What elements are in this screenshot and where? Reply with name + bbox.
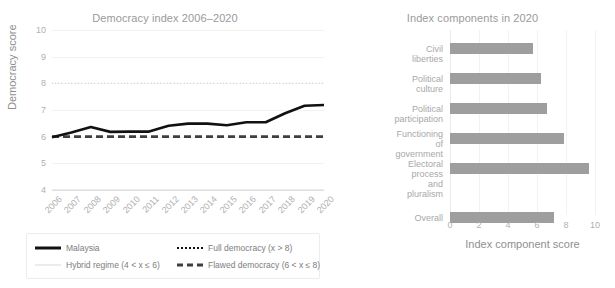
line-chart-series-group (52, 30, 324, 190)
malaysia-series-line (52, 105, 324, 137)
legend-label: Malaysia (66, 243, 100, 253)
x-axis-tick-label: 2009 (101, 194, 122, 215)
x-axis-tick-label: 2014 (198, 194, 219, 215)
bar-chart-plot-area: Civil libertiesPolitical culturePolitica… (450, 30, 595, 215)
x-axis-tick-label: 2017 (257, 194, 278, 215)
bar-category-label: Overall (414, 213, 443, 223)
bar-row[interactable]: Electoral process and pluralism (450, 163, 595, 174)
gridline (537, 30, 538, 215)
bar[interactable] (450, 43, 533, 54)
y-axis-tick-label: 10 (36, 25, 46, 35)
bar-row[interactable]: Functioning of government (450, 133, 595, 144)
x-axis-tick-label: 2019 (295, 194, 316, 215)
gridline (508, 30, 509, 215)
y-axis-tick-label: 5 (41, 158, 46, 168)
legend-item-malaysia[interactable]: Malaysia (35, 243, 177, 253)
x-axis-tick-label: 2 (476, 220, 481, 230)
x-axis-tick-label: 2006 (43, 194, 64, 215)
bar-chart-panel: Index components in 2020 Civil liberties… (330, 0, 615, 288)
thin-line-swatch-icon (35, 260, 61, 270)
gridline (566, 30, 567, 215)
legend-box: Malaysia Full democracy (x > 8) Hybrid r… (26, 233, 320, 279)
legend-label: Full democracy (x > 8) (208, 243, 292, 253)
dotted-line-swatch-icon (177, 243, 203, 253)
bar-chart-title: Index components in 2020 (330, 12, 615, 24)
x-axis-tick-label: 2007 (62, 194, 83, 215)
bar[interactable] (450, 163, 589, 174)
legend-item-full-democracy[interactable]: Full democracy (x > 8) (177, 243, 320, 253)
x-axis-tick-label: 2013 (179, 194, 200, 215)
bar-row[interactable]: Civil liberties (450, 43, 595, 54)
bar-row[interactable]: Political participation (450, 103, 595, 114)
x-axis-tick-label: 2011 (140, 194, 161, 215)
bar-category-label: Political culture (412, 74, 443, 94)
solid-line-swatch-icon (35, 243, 61, 253)
x-axis-tick-label: 2015 (218, 194, 239, 215)
bar-category-label: Functioning of government (395, 129, 443, 159)
dashed-line-swatch-icon (177, 260, 203, 270)
bar[interactable] (450, 103, 547, 114)
line-chart-y-axis-label: Democracy score (6, 24, 18, 110)
legend-item-hybrid-regime[interactable]: Hybrid regime (4 < x ≤ 6) (35, 260, 177, 270)
bar-category-label: Political participation (394, 104, 443, 124)
legend-label: Hybrid regime (4 < x ≤ 6) (66, 260, 160, 270)
bar-row[interactable]: Overall (450, 212, 595, 223)
bar[interactable] (450, 73, 541, 84)
y-axis-tick-label: 8 (41, 78, 46, 88)
bar-chart-x-axis-label: Index component score (450, 238, 595, 250)
gridline (595, 30, 596, 215)
x-axis-tick-label: 2018 (276, 194, 297, 215)
x-axis-tick-label: 2010 (121, 194, 142, 215)
x-axis-tick-label: 2016 (237, 194, 258, 215)
democracy-index-figure: Democracy index 2006–2020 Democracy scor… (0, 0, 615, 288)
bar-row[interactable]: Political culture (450, 73, 595, 84)
x-axis-tick-label: 2012 (159, 194, 180, 215)
bar-category-label: Civil liberties (412, 44, 443, 64)
bar-category-label: Electoral process and pluralism (407, 159, 443, 199)
y-axis-tick-label: 9 (41, 52, 46, 62)
y-axis-tick-label: 4 (41, 185, 46, 195)
x-axis-tick-label: 8 (563, 220, 568, 230)
line-chart-plot-area: 10987654 2006200720082009201020112012201… (52, 30, 324, 190)
legend-label: Flawed democracy (6 < x ≤ 8) (208, 260, 320, 270)
line-chart-panel: Democracy index 2006–2020 Democracy scor… (0, 0, 330, 288)
gridline (479, 30, 480, 215)
x-axis-tick-label: 0 (447, 220, 452, 230)
y-axis-tick-label: 7 (41, 105, 46, 115)
bar[interactable] (450, 133, 564, 144)
legend-item-flawed-democracy[interactable]: Flawed democracy (6 < x ≤ 8) (177, 260, 320, 270)
x-axis-tick-label: 4 (505, 220, 510, 230)
y-axis-tick-label: 6 (41, 132, 46, 142)
x-axis-tick-label: 6 (534, 220, 539, 230)
x-axis-tick-label: 10 (590, 220, 600, 230)
line-chart-title: Democracy index 2006–2020 (0, 12, 330, 24)
gridline (450, 30, 451, 215)
x-axis-tick-label: 2008 (82, 194, 103, 215)
